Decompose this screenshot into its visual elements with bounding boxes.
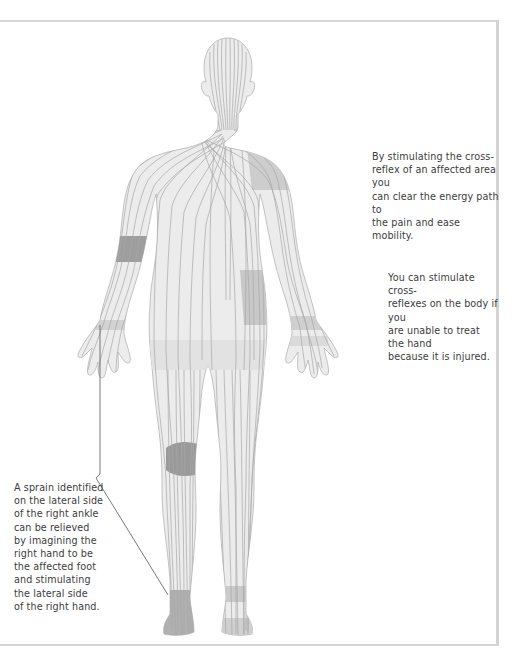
zone-pelvis-light xyxy=(150,340,270,370)
zone-right-forearm xyxy=(106,236,148,262)
caption-ankle-sprain: A sprain identified on the lateral side … xyxy=(14,481,114,613)
caption-shoulder-cross-reflex: By stimulating the cross- reflex of an a… xyxy=(372,150,502,242)
zone-left-hand xyxy=(290,316,326,330)
caption-hand-cross-reflex: You can stimulate cross- reflexes on the… xyxy=(388,271,498,363)
zone-left-shoulder xyxy=(246,140,298,190)
